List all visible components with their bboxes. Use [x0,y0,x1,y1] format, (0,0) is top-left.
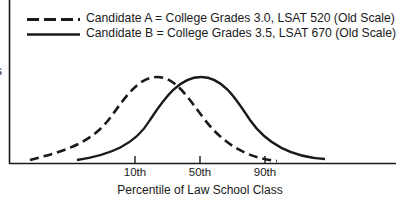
series-candidate-a-curve [30,77,277,161]
x-axis-label: Percentile of Law School Class [117,183,282,197]
series-candidate-b-curve [77,77,325,160]
legend-item-candidate-a: Candidate A = College Grades 3.0, LSAT 5… [86,11,395,25]
legend-item-candidate-b: Candidate B = College Grades 3.5, LSAT 6… [86,26,396,40]
x-tick-label-50th: 50th [189,166,211,178]
y-axis-label-fragment: s [0,64,2,78]
x-tick-label-90th: 90th [254,166,276,178]
x-tick-label-10th: 10th [124,166,146,178]
